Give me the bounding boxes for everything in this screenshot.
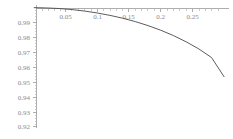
y-tick-label: 0.92	[18, 123, 31, 131]
y-axis-tick-labels: 0.99 0.98 0.97 0.96 0.95 0.94 0.93 0.92	[18, 19, 31, 131]
y-tick-label: 0.99	[18, 19, 31, 27]
y-tick-label: 0.97	[18, 49, 31, 57]
y-tick-label: 0.98	[18, 34, 31, 42]
x-tick-label: 0.1	[93, 13, 102, 21]
y-tick-label: 0.93	[18, 109, 31, 117]
chart-screenshot: 0.05 0.1 0.15 0.2 0.25 0.99 0.98 0.97 0.…	[0, 0, 233, 139]
plot-canvas: 0.05 0.1 0.15 0.2 0.25 0.99 0.98 0.97 0.…	[0, 0, 233, 139]
y-tick-label: 0.94	[18, 94, 31, 102]
y-tick-label: 0.96	[18, 64, 31, 72]
y-tick-label: 0.95	[18, 79, 31, 87]
x-tick-label: 0.2	[156, 13, 165, 21]
x-tick-label: 0.25	[186, 13, 199, 21]
x-tick-label: 0.05	[59, 13, 72, 21]
y-axis-ticks	[33, 11, 37, 127]
